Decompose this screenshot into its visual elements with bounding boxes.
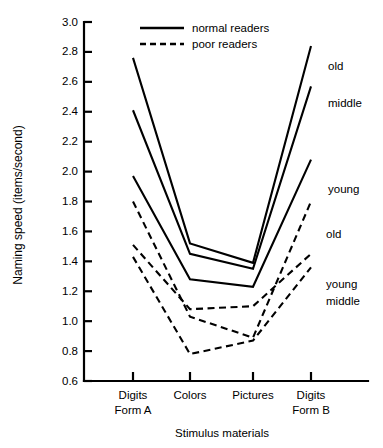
- x-axis-title: Stimulus materials: [175, 427, 269, 439]
- x-axis-tick-label: Form A: [114, 404, 151, 416]
- y-axis-tick-label: 1.6: [62, 225, 78, 237]
- series-end-label-poor-young: young: [326, 278, 357, 290]
- y-axis-tick-label: 3.0: [62, 16, 78, 28]
- x-axis-tick-label: Digits: [119, 389, 148, 401]
- y-axis-tick-label: 0.8: [62, 345, 78, 357]
- series-line-poor-middle: [133, 257, 311, 354]
- y-axis: 0.60.81.01.21.41.61.82.02.22.42.62.83.0: [62, 16, 92, 387]
- x-axis-tick-label: Pictures: [232, 389, 274, 401]
- x-axis: DigitsForm AColorsPicturesDigitsForm B: [84, 372, 368, 416]
- line-chart: 0.60.81.01.21.41.61.82.02.22.42.62.83.0 …: [0, 0, 383, 448]
- y-axis-tick-label: 0.6: [62, 375, 78, 387]
- legend-label-solid: normal readers: [192, 22, 270, 34]
- x-axis-tick-label: Form B: [292, 404, 330, 416]
- chart-canvas: 0.60.81.01.21.41.61.82.02.22.42.62.83.0 …: [0, 0, 383, 448]
- y-axis-tick-label: 2.8: [62, 45, 78, 57]
- legend-label-dashed: poor readers: [192, 38, 257, 50]
- series-line-poor-old: [133, 202, 311, 338]
- y-axis-tick-label: 2.6: [62, 75, 78, 87]
- series-line-normal-old: [133, 46, 311, 263]
- series-end-label-poor-middle: middle: [326, 295, 360, 307]
- y-axis-tick-label: 1.2: [62, 285, 78, 297]
- series-lines: [133, 46, 311, 354]
- y-axis-tick-label: 2.4: [62, 105, 79, 117]
- series-end-labels: oldmiddleyoungoldyoungmiddle: [326, 60, 362, 307]
- series-end-label-poor-old: old: [326, 228, 341, 240]
- y-axis-tick-label: 2.0: [62, 165, 78, 177]
- series-end-label-normal-young: young: [328, 183, 359, 195]
- y-axis-tick-label: 1.4: [62, 255, 79, 267]
- series-end-label-normal-middle: middle: [328, 97, 362, 109]
- y-axis-title: Naming speed (items/second): [11, 125, 25, 284]
- series-end-label-normal-old: old: [328, 60, 343, 72]
- x-axis-tick-label: Digits: [297, 389, 326, 401]
- chart-legend: normal readerspoor readers: [140, 22, 270, 50]
- y-axis-tick-label: 2.2: [62, 135, 78, 147]
- series-line-normal-middle: [133, 86, 311, 268]
- y-axis-tick-label: 1.8: [62, 195, 78, 207]
- y-axis-tick-label: 1.0: [62, 315, 78, 327]
- x-axis-tick-label: Colors: [173, 389, 206, 401]
